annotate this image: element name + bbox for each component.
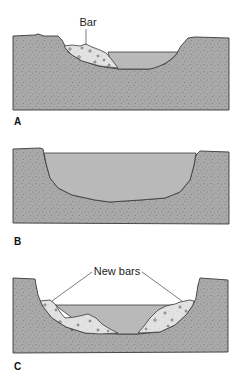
panel-label-b: B — [14, 236, 21, 247]
panel-label-c: C — [14, 361, 21, 372]
callout-leader-line-left — [52, 272, 92, 301]
callout-leader-line-right — [142, 272, 182, 301]
panel-b: B — [13, 148, 229, 247]
callout-new-bars: New bars — [94, 265, 141, 277]
panel-label-a: A — [14, 116, 21, 127]
panel-a: Bar A — [13, 16, 229, 127]
river-bar-diagram: Bar A B New bars C — [0, 0, 244, 378]
sediment-bank — [13, 34, 229, 110]
panel-c: New bars C — [13, 265, 228, 372]
callout-bar: Bar — [79, 16, 96, 28]
